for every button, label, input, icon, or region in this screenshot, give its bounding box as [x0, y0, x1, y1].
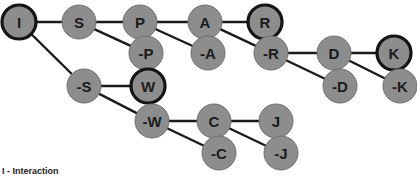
- node-label-not-J: -J: [274, 145, 287, 162]
- node-label-C: C: [209, 113, 220, 130]
- tree-node-P[interactable]: P: [123, 5, 157, 39]
- node-label-P: P: [135, 14, 145, 31]
- node-label-R: R: [260, 14, 271, 31]
- tree-node-D[interactable]: D: [317, 36, 351, 70]
- tree-node-not-D[interactable]: -D: [323, 69, 357, 103]
- tree-node-not-W[interactable]: -W: [135, 104, 169, 138]
- node-label-not-P: -P: [139, 45, 154, 62]
- node-label-W: W: [141, 78, 156, 95]
- node-label-S: S: [74, 14, 84, 31]
- tree-node-J[interactable]: J: [259, 104, 293, 138]
- tree-graph-canvas: ISPAR-P-A-RDK-D-K-SW-WCJ-C-J: [0, 0, 417, 180]
- tree-node-not-R[interactable]: -R: [254, 36, 288, 70]
- node-label-K: K: [389, 45, 400, 62]
- node-label-I: I: [17, 14, 21, 31]
- nodes-group: ISPAR-P-A-RDK-D-K-SW-WCJ-C-J: [2, 5, 417, 170]
- decision-tree-diagram: ISPAR-P-A-RDK-D-K-SW-WCJ-C-J I - Interac…: [0, 0, 417, 180]
- caption-layer: I - Interaction: [0, 166, 417, 180]
- tree-node-not-P[interactable]: -P: [129, 36, 163, 70]
- tree-node-not-S[interactable]: -S: [67, 69, 101, 103]
- node-label-not-D: -D: [332, 78, 348, 95]
- tree-node-not-K[interactable]: -K: [383, 69, 417, 103]
- tree-node-C[interactable]: C: [197, 104, 231, 138]
- node-label-not-W: -W: [142, 113, 162, 130]
- tree-node-not-C[interactable]: -C: [202, 136, 236, 170]
- node-label-not-A: -A: [200, 45, 216, 62]
- node-label-not-S: -S: [77, 78, 92, 95]
- node-label-not-R: -R: [263, 45, 279, 62]
- tree-node-W[interactable]: W: [131, 69, 165, 103]
- node-label-not-K: -K: [392, 78, 408, 95]
- tree-node-S[interactable]: S: [62, 5, 96, 39]
- node-label-not-C: -C: [211, 145, 227, 162]
- tree-node-I[interactable]: I: [2, 5, 36, 39]
- node-label-A: A: [200, 14, 211, 31]
- tree-node-not-J[interactable]: -J: [264, 136, 298, 170]
- tree-node-A[interactable]: A: [188, 5, 222, 39]
- tree-node-R[interactable]: R: [248, 5, 282, 39]
- tree-node-K[interactable]: K: [377, 36, 411, 70]
- node-label-J: J: [272, 113, 280, 130]
- tree-node-not-A[interactable]: -A: [191, 36, 225, 70]
- tree-edge-I-to-not-S: [30, 33, 74, 76]
- legend-caption: I - Interaction: [2, 166, 59, 176]
- node-label-D: D: [329, 45, 340, 62]
